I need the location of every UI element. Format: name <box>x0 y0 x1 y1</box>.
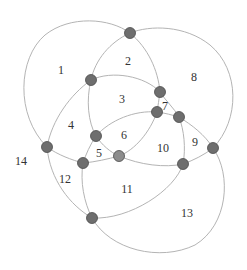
intersection-node <box>86 75 97 86</box>
intersection-node <box>208 143 219 154</box>
arc-right-outer <box>130 28 233 148</box>
intersection-node <box>178 159 189 170</box>
region-label-7: 7 <box>162 99 168 114</box>
region-label-4: 4 <box>68 118 74 133</box>
region-label-3: 3 <box>119 92 125 107</box>
arc-a <box>47 33 130 218</box>
intersection-node <box>78 158 89 169</box>
region-label-1: 1 <box>58 63 64 78</box>
intersection-node <box>125 28 136 39</box>
region-label-2: 2 <box>125 54 131 69</box>
intersection-node <box>174 112 185 123</box>
arc-left-outer <box>24 21 130 147</box>
arc-i <box>82 136 96 218</box>
region-label-8: 8 <box>191 70 197 85</box>
region-label-14: 14 <box>15 154 27 169</box>
region-label-12: 12 <box>59 172 71 187</box>
region-label-10: 10 <box>157 141 169 156</box>
arc-bottom-outer <box>92 148 224 253</box>
region-label-11: 11 <box>121 182 133 197</box>
region-label-6: 6 <box>121 128 127 143</box>
intersection-node <box>114 151 125 162</box>
intersection-node <box>155 87 166 98</box>
region-label-5: 5 <box>96 146 102 161</box>
arc-b <box>92 33 184 218</box>
intersection-node <box>91 131 102 142</box>
region-label-13: 13 <box>181 206 193 221</box>
intersection-node <box>87 213 98 224</box>
intersection-node <box>152 107 163 118</box>
arc-c <box>91 75 160 92</box>
intersection-node <box>42 142 53 153</box>
region-label-9: 9 <box>192 135 198 150</box>
